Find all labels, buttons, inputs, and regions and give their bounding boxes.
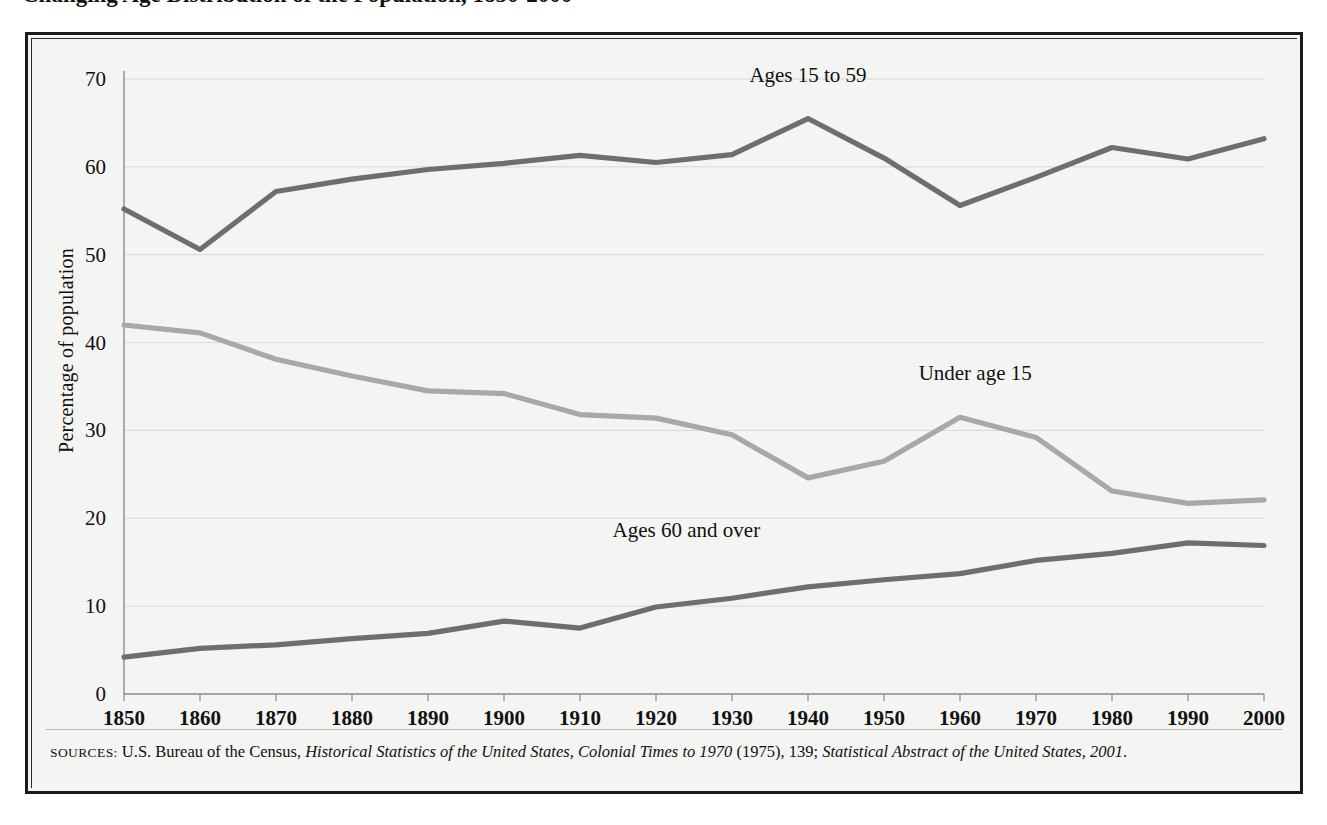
series-label-2: Ages 60 and over xyxy=(613,518,761,543)
y-tick-0: 0 xyxy=(46,682,106,707)
source-prefix: SOURCES: xyxy=(50,745,118,760)
source-text-3: . xyxy=(1123,742,1127,761)
source-divider xyxy=(46,729,1282,730)
source-italic-1: Historical Statistics of the United Stat… xyxy=(305,742,732,761)
y-tick-60: 60 xyxy=(46,154,106,179)
x-tick-1850: 1850 xyxy=(84,706,164,731)
figure-page: Changing Age Distribution of the Populat… xyxy=(0,0,1327,825)
x-tick-1930: 1930 xyxy=(692,706,772,731)
y-tick-70: 70 xyxy=(46,67,106,92)
figure-frame-outer: Percentage of population 010203040506070… xyxy=(25,32,1303,794)
y-tick-20: 20 xyxy=(46,506,106,531)
y-tick-50: 50 xyxy=(46,242,106,267)
x-tick-1990: 1990 xyxy=(1148,706,1228,731)
x-tick-1920: 1920 xyxy=(616,706,696,731)
x-tick-1950: 1950 xyxy=(844,706,924,731)
x-tick-1870: 1870 xyxy=(236,706,316,731)
y-tick-30: 30 xyxy=(46,418,106,443)
source-text-2: (1975), 139; xyxy=(732,742,822,761)
source-italic-2: Statistical Abstract of the United State… xyxy=(822,742,1123,761)
y-tick-40: 40 xyxy=(46,330,106,355)
figure-frame-inner: Percentage of population 010203040506070… xyxy=(31,38,1297,788)
x-tick-1910: 1910 xyxy=(540,706,620,731)
x-tick-1880: 1880 xyxy=(312,706,392,731)
x-tick-1900: 1900 xyxy=(464,706,544,731)
x-tick-1940: 1940 xyxy=(768,706,848,731)
line-chart-plot xyxy=(32,39,1298,789)
source-note: SOURCES: U.S. Bureau of the Census, Hist… xyxy=(50,741,1278,763)
chart-area: Percentage of population 010203040506070… xyxy=(32,39,1296,787)
figure-title: Changing Age Distribution of the Populat… xyxy=(22,0,922,8)
series-label-0: Ages 15 to 59 xyxy=(749,63,866,88)
source-text-1: U.S. Bureau of the Census, xyxy=(122,742,305,761)
x-tick-1860: 1860 xyxy=(160,706,240,731)
series-label-1: Under age 15 xyxy=(919,361,1032,386)
y-tick-10: 10 xyxy=(46,594,106,619)
x-tick-1980: 1980 xyxy=(1072,706,1152,731)
x-tick-1960: 1960 xyxy=(920,706,1000,731)
x-tick-1890: 1890 xyxy=(388,706,468,731)
x-tick-1970: 1970 xyxy=(996,706,1076,731)
x-tick-2000: 2000 xyxy=(1224,706,1304,731)
